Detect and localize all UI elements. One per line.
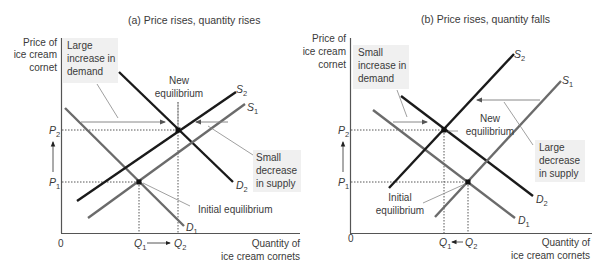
panel-b-p2-label: P2 [338,124,349,139]
panel-a-s1-label: S1 [247,101,258,116]
panel-b-y-label-2: ice cream [303,46,346,57]
panel-b-initial-equilibrium-point [466,180,471,185]
supply-demand-diagrams: (a) Price rises, quantity rises Price of… [0,0,611,274]
panel-a-initial-equilibrium-point [137,180,142,185]
panel-b-supply-shift-3: in supply [539,168,578,179]
panel-a-y-label-3: cornet [29,62,57,73]
panel-a-supply-leader [208,126,253,155]
panel-b-initial-eq-2: equilibrium [376,205,424,216]
panel-b-p1-label: P1 [338,176,349,191]
panel-b-y-label-1: Price of [312,33,346,44]
panel-a-initial-eq: Initial equilibrium [198,204,272,215]
panel-a-p2-label: P2 [49,124,60,139]
panel-a-initial-eq-leader [143,183,190,206]
panel-b-q1-label: Q1 [439,236,451,251]
panel-b: (b) Price rises, quantity falls Price of… [303,13,592,261]
panel-a-y-label-2: ice cream [14,49,57,60]
panel-a-supply-shift-1: Small [256,152,281,163]
panel-a-new-equilibrium-point [176,128,181,133]
panel-b-new-eq-1: New [480,113,501,124]
panel-a-y-label-1: Price of [23,37,57,48]
panel-b-new-eq-2: equilibrium [466,126,514,137]
panel-a-demand-shift-1: Large [67,40,93,51]
panel-b-x-label-1: Quantity of [542,237,591,248]
panel-a-new-eq-1: New [169,75,190,86]
panel-a-demand-leader [97,84,118,118]
panel-b-demand-shift-3: demand [358,73,394,84]
panel-b-supply-shift-1: Large [539,142,565,153]
panel-a-q2-label: Q2 [174,237,186,252]
panel-b-new-equilibrium-point [442,128,447,133]
panel-a: (a) Price rises, quantity rises Price of… [14,14,301,262]
panel-b-demand-shift-2: increase in [358,60,406,71]
panel-a-s2-label: S2 [236,83,247,98]
panel-a-supply-shift-3: in supply [256,178,295,189]
panel-b-x-label-2: ice cream cornets [511,250,590,261]
panel-b-y-label-3: cornet [318,59,346,70]
panel-b-demand-leader [397,90,407,117]
panel-b-d2-label: D2 [536,193,548,208]
panel-a-origin: 0 [58,238,64,249]
panel-a-x-label-1: Quantity of [252,238,301,249]
panel-b-title: (b) Price rises, quantity falls [421,13,550,25]
panel-b-origin: 0 [348,233,354,244]
panel-b-s1-label: S1 [562,74,573,89]
panel-b-d1-label: D1 [518,214,530,229]
panel-a-p1-label: P1 [49,176,60,191]
panel-b-demand-shift-1: Small [358,47,383,58]
panel-a-d2-label: D2 [236,179,248,194]
panel-a-q1-label: Q1 [134,237,146,252]
panel-a-x-label-2: ice cream cornets [221,251,300,262]
panel-a-s1-curve [88,104,245,218]
panel-a-demand-shift-3: demand [67,66,103,77]
panel-b-q2-label: Q2 [465,236,477,251]
panel-a-demand-shift-2: increase in [67,53,115,64]
panel-a-supply-shift-2: decrease [256,165,298,176]
panel-b-supply-shift-2: decrease [539,155,581,166]
panel-b-s2-label: S2 [514,48,525,63]
panel-a-title: (a) Price rises, quantity rises [128,14,260,26]
panel-b-initial-eq-1: Initial [388,192,411,203]
panel-a-new-eq-2: equilibrium [155,88,203,99]
